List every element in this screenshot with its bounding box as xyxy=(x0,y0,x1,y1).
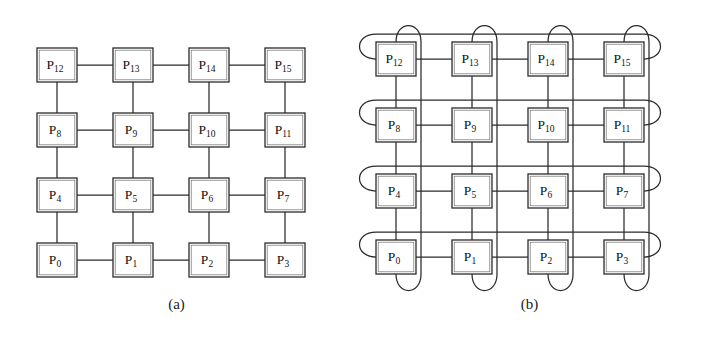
node-p3: P3 xyxy=(604,240,644,274)
node-p15: P15 xyxy=(604,42,644,76)
node-p7: P7 xyxy=(604,174,644,208)
node-p4: P4 xyxy=(376,174,416,208)
node-p9: P9 xyxy=(452,108,492,142)
node-p1: P1 xyxy=(452,240,492,274)
node-p6: P6 xyxy=(528,174,568,208)
node-p4: P4 xyxy=(37,178,77,212)
node-p14: P14 xyxy=(189,48,229,82)
node-p12: P12 xyxy=(37,48,77,82)
caption-a: (a) xyxy=(0,296,353,313)
node-p11: P11 xyxy=(604,108,644,142)
node-p2: P2 xyxy=(189,243,229,277)
link-layer xyxy=(396,59,624,257)
node-p9: P9 xyxy=(113,113,153,147)
node-p14: P14 xyxy=(528,42,568,76)
node-p11: P11 xyxy=(265,113,305,147)
node-p5: P5 xyxy=(452,174,492,208)
node-p13: P13 xyxy=(452,42,492,76)
figure-root: P12P13P14P15P8P9P10P11P4P5P6P7P0P1P2P3 (… xyxy=(0,0,706,344)
node-p0: P0 xyxy=(376,240,416,274)
node-p15: P15 xyxy=(265,48,305,82)
node-p7: P7 xyxy=(265,178,305,212)
node-p5: P5 xyxy=(113,178,153,212)
node-p2: P2 xyxy=(528,240,568,274)
node-p3: P3 xyxy=(265,243,305,277)
node-p1: P1 xyxy=(113,243,153,277)
node-layer: P12P13P14P15P8P9P10P11P4P5P6P7P0P1P2P3 xyxy=(37,48,305,277)
node-p0: P0 xyxy=(37,243,77,277)
node-p13: P13 xyxy=(113,48,153,82)
node-p8: P8 xyxy=(37,113,77,147)
link-layer xyxy=(57,65,285,260)
panel-mesh: P12P13P14P15P8P9P10P11P4P5P6P7P0P1P2P3 (… xyxy=(0,0,353,344)
mesh-diagram: P12P13P14P15P8P9P10P11P4P5P6P7P0P1P2P3 xyxy=(0,0,353,300)
node-p12: P12 xyxy=(376,42,416,76)
torus-diagram: P12P13P14P15P8P9P10P11P4P5P6P7P0P1P2P3 xyxy=(353,0,706,300)
caption-b: (b) xyxy=(353,296,706,313)
node-p10: P10 xyxy=(528,108,568,142)
node-p8: P8 xyxy=(376,108,416,142)
node-p6: P6 xyxy=(189,178,229,212)
node-layer: P12P13P14P15P8P9P10P11P4P5P6P7P0P1P2P3 xyxy=(376,42,644,274)
panel-torus: P12P13P14P15P8P9P10P11P4P5P6P7P0P1P2P3 (… xyxy=(353,0,706,344)
node-p10: P10 xyxy=(189,113,229,147)
